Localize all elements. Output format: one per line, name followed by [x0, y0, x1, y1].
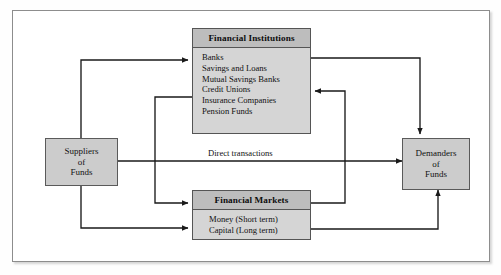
demanders-line-3: Funds — [416, 169, 457, 180]
markets-item-capital: Capital (Long term) — [209, 225, 310, 236]
flow-suppliers-to-institutions — [81, 60, 188, 138]
node-demanders-of-funds[interactable]: Demanders of Funds — [402, 138, 470, 190]
node-financial-markets[interactable]: Financial Markets Money (Short term) Cap… — [192, 190, 311, 240]
label-direct-transactions: Direct transactions — [208, 148, 273, 158]
flow-institutions-to-markets — [155, 97, 192, 203]
financial-institutions-list: Banks Savings and Loans Mutual Savings B… — [193, 48, 310, 121]
diagram-canvas: Suppliers of Funds Demanders of Funds Fi… — [0, 0, 501, 275]
suppliers-line-3: Funds — [64, 167, 98, 178]
markets-item-money: Money (Short term) — [209, 214, 310, 225]
demanders-line-2: of — [416, 159, 457, 170]
demanders-line-1: Demanders — [416, 148, 457, 159]
institutions-item-mutual-savings-banks: Mutual Savings Banks — [202, 74, 310, 85]
institutions-item-savings-and-loans: Savings and Loans — [202, 63, 310, 74]
flow-markets-to-demanders — [311, 190, 438, 229]
financial-markets-header: Financial Markets — [193, 191, 310, 210]
node-financial-institutions[interactable]: Financial Institutions Banks Savings and… — [192, 28, 311, 134]
flow-institutions-to-demanders — [311, 58, 420, 134]
institutions-item-pension-funds: Pension Funds — [202, 106, 310, 117]
financial-institutions-header: Financial Institutions — [193, 29, 310, 48]
flow-markets-to-institutions — [311, 91, 345, 203]
suppliers-line-1: Suppliers — [64, 146, 98, 157]
institutions-item-insurance-companies: Insurance Companies — [202, 95, 310, 106]
node-suppliers-of-funds[interactable]: Suppliers of Funds — [45, 138, 118, 186]
financial-markets-list: Money (Short term) Capital (Long term) — [193, 210, 310, 240]
flow-suppliers-to-markets — [81, 186, 188, 228]
institutions-item-banks: Banks — [202, 52, 310, 63]
institutions-item-credit-unions: Credit Unions — [202, 84, 310, 95]
suppliers-line-2: of — [64, 157, 98, 168]
